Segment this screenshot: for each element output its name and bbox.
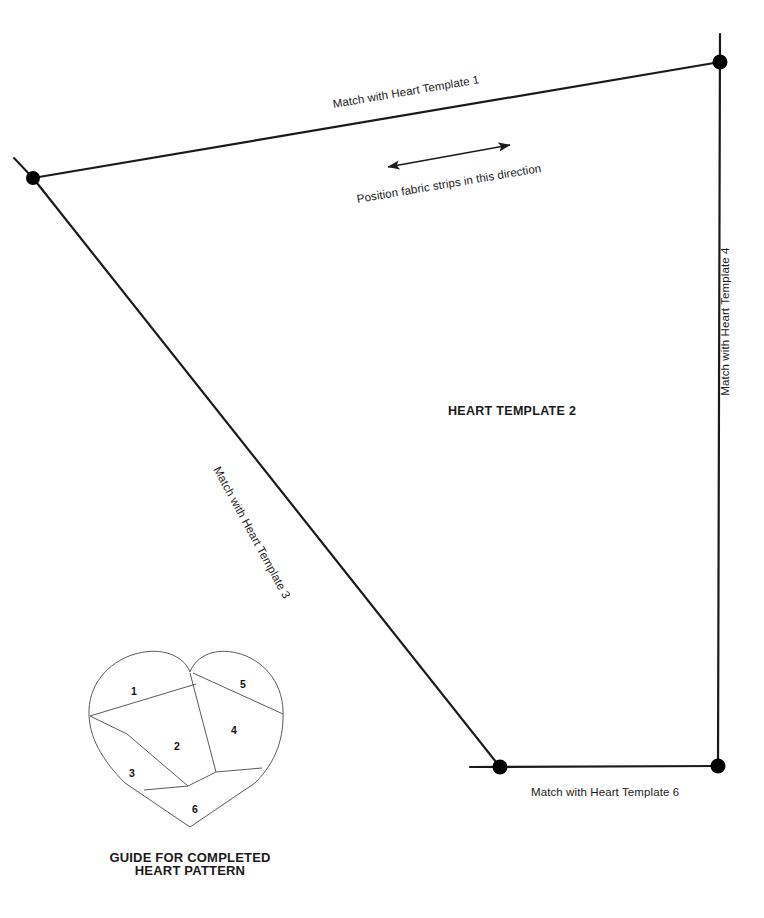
heart-centre-seam xyxy=(190,673,216,772)
pattern-sheet: Match with Heart Template 1 Position fab… xyxy=(0,0,764,918)
heart-region-number-1: 1 xyxy=(131,686,137,697)
pattern-drawing xyxy=(0,0,764,918)
heart-divider-1-3 xyxy=(90,716,127,734)
heart-divider-1-2 xyxy=(90,684,196,716)
edge-label-template-4: Match with Heart Template 4 xyxy=(720,248,732,396)
template-outline xyxy=(14,34,720,767)
vertex-dot-bottom-right xyxy=(711,759,726,774)
heart-region-number-6: 6 xyxy=(192,804,198,815)
heart-guide-drawing xyxy=(89,651,283,827)
vertex-dot-top-left xyxy=(26,171,40,185)
edge-right xyxy=(718,34,720,766)
heart-outline xyxy=(89,651,283,827)
edge-diagonal xyxy=(33,178,500,767)
heart-region-number-3: 3 xyxy=(129,768,135,779)
heart-region-number-4: 4 xyxy=(231,725,237,736)
fabric-direction-arrow xyxy=(388,145,510,167)
heart-region-number-5: 5 xyxy=(240,679,246,690)
vertex-dot-bottom-left xyxy=(493,760,508,775)
guide-caption-line-2: HEART PATTERN xyxy=(75,864,305,877)
heart-divider-6-top xyxy=(144,768,262,790)
heart-region-number-2: 2 xyxy=(174,741,180,752)
heart-divider-4-5 xyxy=(193,673,283,714)
edge-top xyxy=(33,62,720,178)
template-title: HEART TEMPLATE 2 xyxy=(448,405,576,418)
guide-caption: GUIDE FOR COMPLETED HEART PATTERN xyxy=(75,851,305,877)
edge-label-template-6: Match with Heart Template 6 xyxy=(531,787,679,799)
arrow-shaft xyxy=(388,145,510,167)
vertex-dot-top-right xyxy=(713,55,728,70)
